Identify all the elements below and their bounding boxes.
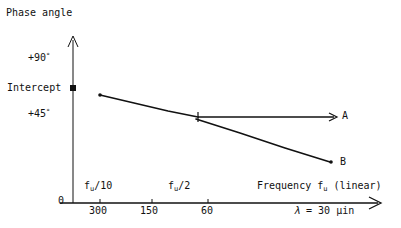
- lambda-condition-value: = 30 µin: [300, 205, 354, 216]
- x-tick-fu-over-2: fu/2: [168, 181, 190, 193]
- curve-b: [196, 119, 333, 164]
- lambda-condition-note: λ = 30 µin: [294, 206, 354, 216]
- phase-angle-figure: Phase angle +90° Intercept +45° 0 fu/10 …: [0, 0, 401, 228]
- curve-label-b: B: [340, 157, 346, 167]
- curve-common-segment: [98, 93, 198, 117]
- x-tick-150: 150: [140, 206, 158, 216]
- y-tick-plus90-value: +90: [28, 52, 46, 63]
- x-tick-fu-over-10: fu/10: [84, 181, 112, 193]
- y-tick-zero: 0: [58, 196, 64, 206]
- x-axis-title-suffix: (linear): [327, 180, 381, 191]
- x-tick-60: 60: [201, 206, 213, 216]
- plot-canvas: [0, 0, 401, 228]
- y-axis-title: Phase angle: [6, 8, 72, 18]
- curve-label-a: A: [342, 111, 348, 121]
- intercept-marker: [70, 85, 76, 91]
- curve-a: [198, 112, 337, 122]
- y-tick-plus45: +45°: [28, 109, 50, 119]
- x-tick-fu-over-10-rest: /10: [94, 180, 112, 191]
- x-axis-title: Frequency fu (linear): [257, 181, 382, 193]
- degree-icon: °: [46, 52, 50, 60]
- intercept-label: Intercept: [7, 83, 61, 93]
- degree-icon: °: [46, 108, 50, 116]
- y-tick-plus45-value: +45: [28, 108, 46, 119]
- x-axis-title-prefix: Frequency f: [257, 180, 323, 191]
- x-tick-fu-over-2-rest: /2: [178, 180, 190, 191]
- y-tick-plus90: +90°: [28, 53, 50, 63]
- y-axis: [68, 36, 78, 203]
- x-tick-300: 300: [89, 206, 107, 216]
